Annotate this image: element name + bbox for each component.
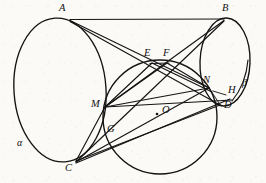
point-label-H: H: [228, 85, 236, 96]
region-label-beta: β: [242, 78, 247, 88]
tangent-tick-H: [213, 91, 226, 95]
geometry-figure: A B C D E F G H M N O α β: [0, 0, 266, 183]
point-label-N: N: [203, 75, 210, 86]
right-base-ellipse-beta: [198, 17, 251, 107]
inscribed-sphere-great-circle: [103, 60, 217, 174]
point-label-D: D: [224, 100, 232, 111]
conic-group: [9, 15, 251, 174]
point-label-B: B: [222, 3, 228, 14]
point-label-G: G: [107, 124, 115, 135]
segment-AN: [70, 21, 209, 89]
point-label-A: A: [59, 3, 65, 14]
marker-group: [156, 113, 159, 116]
segment-AD: [70, 22, 220, 106]
figure-canvas: [0, 0, 266, 183]
point-label-M: M: [91, 99, 100, 110]
ruling-top-AB: [70, 19, 224, 20]
point-label-F: F: [163, 48, 169, 59]
center-dot-O: [156, 113, 159, 116]
point-label-C: C: [65, 163, 72, 174]
segment-MF: [105, 63, 167, 107]
chord-EF: [150, 63, 169, 64]
region-label-alpha: α: [17, 138, 22, 148]
point-label-O: O: [162, 105, 170, 116]
point-label-E: E: [144, 48, 150, 59]
